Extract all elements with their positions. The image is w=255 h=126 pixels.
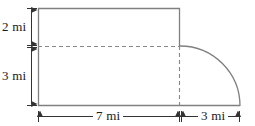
quarter-ellipse-arc	[180, 46, 240, 106]
label-height-lower: 3 mi	[2, 69, 26, 82]
construction-lines	[38, 46, 180, 106]
geometry-figure: 2 mi 3 mi 7 mi 3 mi	[0, 0, 255, 126]
dimension-height-upper	[27, 9, 37, 46]
rectangle-outline	[38, 8, 240, 106]
dimension-height-lower	[27, 48, 37, 106]
label-height-upper: 2 mi	[2, 20, 26, 33]
label-width-left: 7 mi	[93, 109, 123, 122]
label-width-right: 3 mi	[198, 109, 228, 122]
